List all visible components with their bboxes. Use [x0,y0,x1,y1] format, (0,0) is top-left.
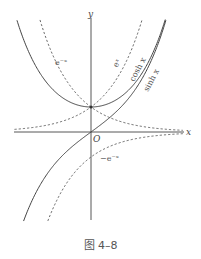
hyperbolic-functions-figure: y x O e⁻ˣ eˣ cosh x sinh x −e⁻ˣ [0,0,201,259]
label-neg-exp-neg: −e⁻ˣ [100,154,119,163]
label-sinh: sinh x [142,67,161,93]
plot-area [15,20,183,222]
curve-e-x [40,20,183,130]
label-exp-pos: eˣ [111,57,123,69]
label-exp-neg: e⁻ˣ [55,58,67,67]
y-axis-label: y [87,9,94,19]
x-axis-label: x [186,127,191,137]
label-cosh: cosh x [128,56,148,83]
curve-e-x [15,20,143,129]
intersection-point [89,105,92,108]
curve-sinh-x [24,20,166,221]
origin-label: O [93,134,101,144]
curve--e-x [48,134,183,221]
figure-caption: 图 4–8 [0,236,201,252]
